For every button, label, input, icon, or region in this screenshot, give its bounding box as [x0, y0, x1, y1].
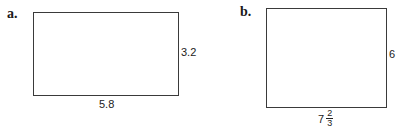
rectangle-b [266, 8, 387, 108]
rectangle-a [33, 12, 179, 96]
fraction-denominator: 3 [327, 119, 332, 128]
fraction: 2 3 [326, 109, 333, 128]
figure-b-label: b. [240, 4, 251, 20]
figure-b-width-label: 7 2 3 [318, 109, 333, 128]
figure-a-width-label: 5.8 [99, 98, 114, 110]
figure-a-label: a. [7, 6, 18, 22]
figure-a-height-label: 3.2 [181, 46, 196, 58]
mixed-number-whole: 7 [318, 113, 324, 125]
figure-b-height-label: 6 [389, 48, 395, 60]
